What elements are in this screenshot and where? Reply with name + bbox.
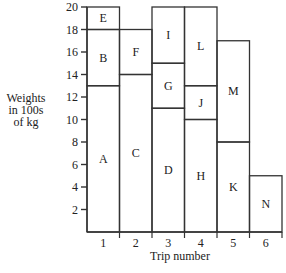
y-tick-label: 2 — [72, 203, 78, 217]
blocks: ABECFDGIHJLKMN — [87, 7, 282, 232]
trip-weights-chart: 2468101214161820123456 ABECFDGIHJLKMN — [0, 0, 286, 273]
y-tick-label: 12 — [66, 90, 78, 104]
x-tick-label: 5 — [230, 236, 236, 250]
y-tick-label: 14 — [66, 68, 78, 82]
y-tick-label: 10 — [66, 113, 78, 127]
y-tick-label: 20 — [66, 0, 78, 14]
x-tick-label: 1 — [100, 236, 106, 250]
block-label: E — [100, 11, 107, 25]
y-tick-label: 6 — [72, 158, 78, 172]
block-label: D — [164, 163, 173, 177]
y-axis-label: Weights in 100s of kg — [2, 92, 50, 128]
block-label: F — [132, 45, 139, 59]
block-label: I — [166, 28, 170, 42]
block-label: B — [99, 51, 107, 65]
x-tick-label: 6 — [263, 236, 269, 250]
y-axis-label-line: of kg — [2, 116, 50, 128]
y-tick-label: 18 — [66, 23, 78, 37]
block-label: G — [164, 79, 173, 93]
block-label: A — [99, 152, 108, 166]
x-tick-label: 4 — [198, 236, 204, 250]
block-label: L — [197, 39, 204, 53]
x-axis-label: Trip number — [150, 249, 210, 264]
y-tick-label: 16 — [66, 45, 78, 59]
y-tick-label: 4 — [72, 180, 78, 194]
y-tick-label: 8 — [72, 135, 78, 149]
block-label: C — [132, 146, 140, 160]
block-label: M — [228, 84, 239, 98]
block-label: N — [261, 197, 270, 211]
block-label: K — [229, 180, 238, 194]
x-tick-label: 2 — [133, 236, 139, 250]
block-label: J — [198, 96, 203, 110]
x-tick-label: 3 — [165, 236, 171, 250]
block-label: H — [196, 169, 205, 183]
